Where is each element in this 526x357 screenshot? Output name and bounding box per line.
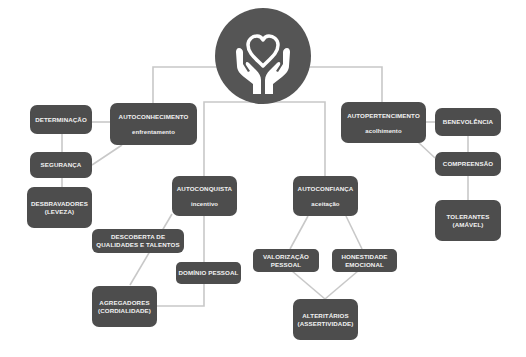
node-title: AUTOPERTENCIMENTO xyxy=(347,112,420,120)
node-title: SEGURANÇA xyxy=(41,161,82,169)
node-line2: PESSOAL xyxy=(271,261,301,269)
node-line2: (CORDIALIDADE) xyxy=(98,307,151,315)
node-line1: DESBRAVADORES xyxy=(31,200,88,208)
node-desbravadores: DESBRAVADORES (LEVEZA) xyxy=(27,187,92,228)
node-subtitle: incentivo xyxy=(191,200,218,208)
node-honestidade-emocional: HONESTIDADE EMOCIONAL xyxy=(332,249,397,272)
node-line1: AGREGADORES xyxy=(99,299,149,307)
node-title: DOMÍNIO PESSOAL xyxy=(179,269,239,277)
node-descoberta: DESCOBERTA DE QUALIDADES E TALENTOS xyxy=(92,229,184,253)
node-title: AUTOCONHECIMENTO xyxy=(119,113,189,121)
node-line2: (AMÁVEL) xyxy=(452,221,483,229)
node-seguranca: SEGURANÇA xyxy=(30,152,92,178)
node-autoconquista: AUTOCONQUISTA incentivo xyxy=(172,176,237,216)
node-title: BENEVOLÊNCIA xyxy=(443,118,493,126)
node-line2: EMOCIONAL xyxy=(345,261,384,269)
node-autopertencimento: AUTOPERTENCIMENTO acolhimento xyxy=(341,102,426,143)
node-title: COMPREENSÃO xyxy=(443,160,493,168)
node-line1: HONESTIDADE xyxy=(341,253,387,261)
node-autoconhecimento: AUTOCONHECIMENTO enfrentamento xyxy=(110,103,197,145)
node-valorizacao-pessoal: VALORIZAÇÃO PESSOAL xyxy=(253,249,319,272)
node-line2: (LEVEZA) xyxy=(45,208,74,216)
node-line1: TOLERANTES xyxy=(447,213,490,221)
node-tolerantes: TOLERANTES (AMÁVEL) xyxy=(435,200,501,241)
concept-map: AUTOCONHECIMENTO enfrentamento DETERMINA… xyxy=(0,0,526,357)
node-benevolencia: BENEVOLÊNCIA xyxy=(435,108,501,136)
node-line1: DESCOBERTA DE xyxy=(111,233,165,241)
node-compreensao: COMPREENSÃO xyxy=(435,152,501,176)
node-line2: (ASSERTIVIDADE) xyxy=(298,320,354,328)
node-line1: VALORIZAÇÃO xyxy=(263,253,309,261)
node-title: DETERMINAÇÃO xyxy=(35,116,87,124)
node-subtitle: aceitação xyxy=(311,200,339,208)
node-autoconfianca: AUTOCONFIANÇA aceitação xyxy=(293,176,358,216)
node-determinacao: DETERMINAÇÃO xyxy=(30,105,92,134)
hands-holding-heart-icon xyxy=(215,8,311,104)
node-agregadores: AGREGADORES (CORDIALIDADE) xyxy=(92,286,157,327)
node-alteritarios: ALTERITÁRIOS (ASSERTIVIDADE) xyxy=(293,299,358,340)
node-subtitle: acolhimento xyxy=(365,127,401,135)
node-line1: ALTERITÁRIOS xyxy=(302,312,348,320)
node-subtitle: enfrentamento xyxy=(132,128,175,136)
hub-circle xyxy=(215,8,311,104)
node-line2: QUALIDADES E TALENTOS xyxy=(96,241,179,249)
node-title: AUTOCONFIANÇA xyxy=(298,185,354,193)
node-dominio-pessoal: DOMÍNIO PESSOAL xyxy=(176,262,241,284)
node-title: AUTOCONQUISTA xyxy=(177,185,232,193)
inner-bracket-line xyxy=(204,102,325,177)
